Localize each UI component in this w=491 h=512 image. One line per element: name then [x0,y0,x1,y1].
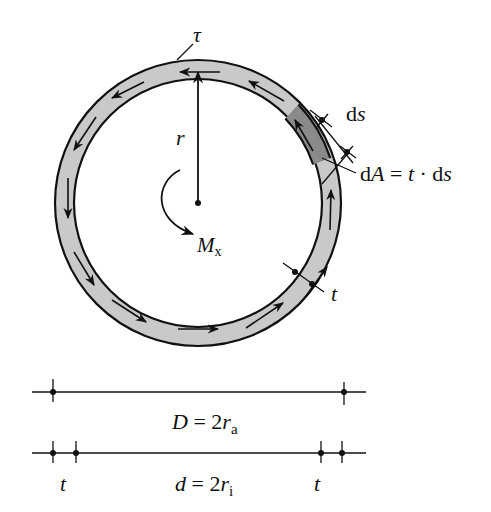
radius-line [195,72,201,206]
dA-label: dA = t · ds [360,161,452,186]
radius-label: r [176,125,185,150]
moment-label: Mx [196,233,222,259]
inner-tick-4 [339,450,345,456]
ds-tick-top [319,117,325,123]
inner-tick-2 [73,450,79,456]
outer-diameter-tick-right [341,389,347,395]
inner-diameter-label: d = 2ri [175,471,233,499]
torsion-tube-diagram: r τ Mx ds dA = t · ds t D = 2ra [0,0,491,512]
wall-thickness-right-label: t [314,471,321,496]
moment-arrow [162,170,193,234]
ds-label: ds [346,101,366,126]
tau-leader [177,44,193,60]
outer-diameter-tick-left [50,389,56,395]
outer-diameter-dimension [32,379,366,405]
thickness-label: t [331,281,338,306]
thickness-tick-outer [309,281,315,287]
tau-label: τ [193,22,202,47]
wall-thickness-left-label: t [60,471,67,496]
thickness-tick-inner [292,269,298,275]
inner-diameter-dimension [32,441,366,463]
inner-tick-3 [318,450,324,456]
outer-diameter-label: D = 2ra [171,409,238,437]
inner-tick-1 [50,450,56,456]
ds-tick-bottom [344,149,350,155]
